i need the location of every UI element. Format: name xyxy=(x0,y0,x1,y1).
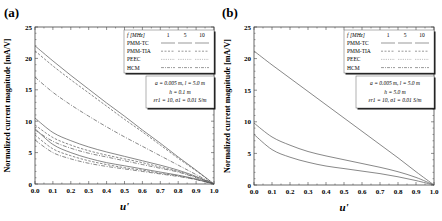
chart-panel-b: (b)0.00.10.20.30.40.50.60.70.80.91.00510… xyxy=(222,5,439,213)
figure: (a)0.00.10.20.30.40.50.60.70.80.91.00510… xyxy=(0,0,442,221)
series-line xyxy=(35,130,214,184)
y-tick-label: 20 xyxy=(244,55,252,63)
legend-method: PEEC xyxy=(347,56,361,62)
x-tick-label: 0.8 xyxy=(394,188,403,196)
legend-freq: 10 xyxy=(419,32,425,38)
x-tick-label: 0.5 xyxy=(120,187,129,195)
y-tick-label: 5 xyxy=(248,150,252,158)
x-tick-label: 0.6 xyxy=(358,188,367,196)
chart-panel-a: (a)0.00.10.20.30.40.50.60.70.80.91.00510… xyxy=(3,5,219,212)
x-tick-label: 0.0 xyxy=(250,188,259,196)
legend-header: f [MHz] xyxy=(127,32,145,38)
legend-freq: 10 xyxy=(199,32,205,38)
parameter-annotation: a = 0.005 m, l = 5.0 mh = 5.0 mεr1 = 10,… xyxy=(356,76,436,110)
y-tick-label: 10 xyxy=(244,118,252,126)
legend-freq: 1 xyxy=(167,32,170,38)
x-tick-label: 0.7 xyxy=(376,188,385,196)
x-tick-label: 0.9 xyxy=(192,187,201,195)
legend-method: PMM-TIA xyxy=(127,48,151,54)
x-tick-label: 0.8 xyxy=(174,187,183,195)
x-tick-label: 0.1 xyxy=(49,187,58,195)
legend-method: PEEC xyxy=(127,56,141,62)
x-tick-label: 0.2 xyxy=(286,188,295,196)
annotation-line: εr1 = 10, σ1 = 0.01 S/m xyxy=(369,97,422,103)
x-axis-label: u' xyxy=(120,200,129,212)
annotation-line: a = 0.005 m, l = 5.0 m xyxy=(155,80,205,86)
y-tick-label: 15 xyxy=(244,87,252,95)
x-tick-label: 0.6 xyxy=(138,187,147,195)
y-tick-label: 25 xyxy=(25,24,33,32)
x-tick-label: 0.9 xyxy=(412,188,421,196)
legend-header: f [MHz] xyxy=(347,32,365,38)
x-tick-label: 0.5 xyxy=(340,188,349,196)
legend-method: PMM-TIA xyxy=(347,48,371,54)
x-axis-label: u' xyxy=(339,201,348,213)
y-axis-label: Normalized current magnitude [mA/V] xyxy=(223,39,232,173)
x-tick-label: 1.0 xyxy=(210,187,219,195)
y-tick-label: 25 xyxy=(244,24,252,32)
x-tick-label: 0.3 xyxy=(84,187,93,195)
y-tick-label: 5 xyxy=(29,149,33,157)
legend-method: HCM xyxy=(347,65,360,71)
panel-label: (a) xyxy=(4,5,19,20)
legend-freq: 1 xyxy=(387,32,390,38)
y-axis-label: Normalized current magnitude [mA/V] xyxy=(3,38,12,172)
x-tick-label: 0.7 xyxy=(156,187,165,195)
legend: f [MHz]1510PMM-TCPMM-TIAPEECHCM xyxy=(344,30,436,75)
series-line xyxy=(35,125,214,184)
y-tick-label: 10 xyxy=(25,118,33,126)
annotation-line: h = 0.1 m xyxy=(169,89,190,95)
y-tick-label: 0 xyxy=(248,182,252,190)
legend-method: PMM-TC xyxy=(347,40,369,46)
x-tick-label: 0.0 xyxy=(31,187,40,195)
legend: f [MHz]1510PMM-TCPMM-TIAPEECHCM xyxy=(124,30,216,75)
y-tick-label: 0 xyxy=(29,181,33,189)
x-tick-label: 0.1 xyxy=(268,188,277,196)
legend-freq: 5 xyxy=(404,32,407,38)
y-tick-label: 15 xyxy=(25,86,33,94)
legend-freq: 5 xyxy=(184,32,187,38)
legend-method: HCM xyxy=(127,65,140,71)
y-tick-label: 20 xyxy=(25,55,33,63)
parameter-annotation: a = 0.005 m, l = 5.0 mh = 0.1 mεr1 = 10,… xyxy=(146,76,216,110)
x-tick-label: 0.2 xyxy=(66,187,75,195)
annotation-line: a = 0.005 m, l = 5.0 m xyxy=(370,80,420,86)
annotation-line: εr1 = 10, σ1 = 0.01 S/m xyxy=(154,97,207,103)
legend-method: PMM-TC xyxy=(127,40,149,46)
x-tick-label: 0.3 xyxy=(304,188,313,196)
x-tick-label: 0.4 xyxy=(102,187,111,195)
x-tick-label: 0.4 xyxy=(322,188,331,196)
x-tick-label: 1.0 xyxy=(430,188,439,196)
panel-label: (b) xyxy=(222,5,238,20)
annotation-line: h = 5.0 m xyxy=(384,89,405,95)
